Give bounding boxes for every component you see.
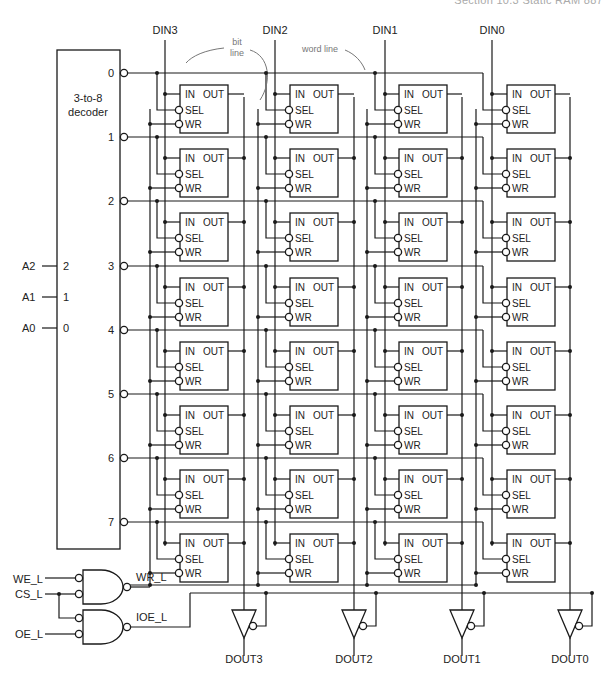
cell-sel-wire xyxy=(266,266,286,303)
junction-dot xyxy=(365,571,369,575)
cs-l-label: CS_L xyxy=(15,588,43,600)
junction-dot xyxy=(352,541,356,545)
wr-bubble-icon xyxy=(285,248,292,255)
cell-sel-label: SEL xyxy=(185,362,204,373)
cell-in-label: IN xyxy=(185,346,195,357)
sram-8x4-diagram: 3-to-8decoderA22A11A0001234567DIN3DOUT3I… xyxy=(0,0,615,690)
sel-bubble-icon xyxy=(502,363,509,370)
wr-bubble-icon xyxy=(502,441,509,448)
decoder-input-pin: 2 xyxy=(63,260,69,272)
junction-dot xyxy=(148,507,152,511)
wr-bubble-icon xyxy=(394,313,401,320)
cell-out-label: OUT xyxy=(203,282,224,293)
decoder-output-pin: 2 xyxy=(108,195,114,207)
input-bubble-icon xyxy=(75,630,82,637)
junction-dot xyxy=(148,315,152,319)
junction-dot xyxy=(256,507,260,511)
cell-wr-label: WR xyxy=(295,183,312,194)
wr-bubble-icon xyxy=(285,505,292,512)
input-bubble-icon xyxy=(75,590,82,597)
output-enable-bubble-icon xyxy=(467,622,474,629)
junction-dot xyxy=(590,591,594,595)
junction-dot xyxy=(256,315,260,319)
junction-dot xyxy=(383,220,387,224)
cell-wr-label: WR xyxy=(404,440,421,451)
cell-sel-label: SEL xyxy=(404,426,423,437)
junction-dot xyxy=(242,220,246,224)
cell-wr-label: WR xyxy=(295,312,312,323)
junction-dot xyxy=(474,443,478,447)
junction-dot xyxy=(273,285,277,289)
junction-dot xyxy=(57,592,61,596)
junction-dot xyxy=(474,379,478,383)
junction-dot xyxy=(256,571,260,575)
cell-out-label: OUT xyxy=(530,153,551,164)
junction-dot xyxy=(148,250,152,254)
junction-dot xyxy=(365,443,369,447)
junction-dot xyxy=(352,156,356,160)
cell-sel-label: SEL xyxy=(185,298,204,309)
junction-dot xyxy=(148,443,152,447)
junction-dot xyxy=(568,220,572,224)
sel-bubble-icon xyxy=(394,555,401,562)
decoder-output-pin: 0 xyxy=(108,67,114,79)
wr-bubble-icon xyxy=(175,441,182,448)
cell-out-label: OUT xyxy=(203,346,224,357)
junction-dot xyxy=(373,135,377,139)
cell-out-label: OUT xyxy=(422,217,443,228)
cell-in-label: IN xyxy=(295,410,305,421)
decoder-output-bubble-icon xyxy=(120,262,127,269)
junction-dot xyxy=(148,379,152,383)
junction-dot xyxy=(273,220,277,224)
cell-in-label: IN xyxy=(404,89,414,100)
decoder-output-bubble-icon xyxy=(120,454,127,461)
junction-dot xyxy=(148,583,152,587)
cell-sel-wire xyxy=(483,522,503,559)
wr-bubble-icon xyxy=(394,441,401,448)
cell-sel-label: SEL xyxy=(512,554,531,565)
junction-dot xyxy=(365,315,369,319)
cell-sel-wire xyxy=(266,330,286,367)
cell-wr-label: WR xyxy=(295,376,312,387)
cell-sel-label: SEL xyxy=(512,362,531,373)
cell-wr-label: WR xyxy=(512,504,529,515)
sel-bubble-icon xyxy=(285,427,292,434)
din-label: DIN1 xyxy=(372,24,397,36)
sel-bubble-icon xyxy=(285,555,292,562)
cell-sel-label: SEL xyxy=(295,105,314,116)
junction-dot xyxy=(474,122,478,126)
cell-wr-label: WR xyxy=(295,440,312,451)
junction-dot xyxy=(264,135,268,139)
decoder-output-pin: 5 xyxy=(108,388,114,400)
cell-sel-wire xyxy=(157,73,176,110)
sel-bubble-icon xyxy=(285,363,292,370)
wr-bubble-icon xyxy=(175,313,182,320)
wr-bubble-icon xyxy=(175,569,182,576)
dout-label: DOUT1 xyxy=(443,653,480,665)
sel-bubble-icon xyxy=(285,106,292,113)
output-enable-bubble-icon xyxy=(249,622,256,629)
cell-in-label: IN xyxy=(404,474,414,485)
cell-sel-wire xyxy=(157,266,176,303)
junction-dot xyxy=(264,328,268,332)
junction-dot xyxy=(490,285,494,289)
cell-sel-label: SEL xyxy=(404,362,423,373)
cell-out-label: OUT xyxy=(313,153,334,164)
sel-bubble-icon xyxy=(175,106,182,113)
sel-bubble-icon xyxy=(285,299,292,306)
cell-wr-label: WR xyxy=(404,119,421,130)
wr-bubble-icon xyxy=(285,377,292,384)
junction-dot xyxy=(155,392,159,396)
cell-sel-label: SEL xyxy=(185,233,204,244)
cell-in-label: IN xyxy=(295,346,305,357)
junction-dot xyxy=(163,541,167,545)
cell-in-label: IN xyxy=(185,217,195,228)
cell-out-label: OUT xyxy=(203,410,224,421)
junction-dot xyxy=(460,220,464,224)
junction-dot xyxy=(490,220,494,224)
cell-wr-label: WR xyxy=(404,312,421,323)
cell-sel-label: SEL xyxy=(512,298,531,309)
junction-dot xyxy=(256,443,260,447)
junction-dot xyxy=(568,477,572,481)
junction-dot xyxy=(568,413,572,417)
